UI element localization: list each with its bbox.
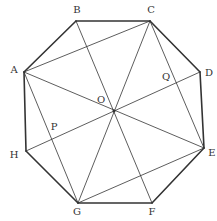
- octagon-diagram: ABCDEFGHOPQ: [0, 0, 217, 221]
- center-dot: [113, 110, 116, 113]
- point-label-D: D: [205, 68, 213, 78]
- point-label-B: B: [73, 5, 80, 15]
- point-label-E: E: [208, 148, 215, 158]
- edge-EF: [152, 148, 204, 203]
- point-label-F: F: [149, 207, 156, 217]
- point-label-P: P: [51, 122, 58, 132]
- point-label-C: C: [147, 5, 155, 15]
- point-label-H: H: [10, 150, 19, 160]
- point-label-G: G: [73, 207, 81, 217]
- edge-AB: [24, 21, 76, 72]
- diagram-svg: [0, 0, 217, 221]
- edge-HA: [24, 72, 26, 151]
- edge-GH: [26, 151, 78, 203]
- point-label-Q: Q: [162, 72, 170, 82]
- point-label-O: O: [97, 95, 105, 105]
- edge-DE: [200, 72, 204, 148]
- point-label-A: A: [10, 65, 17, 75]
- edge-CD: [150, 21, 200, 72]
